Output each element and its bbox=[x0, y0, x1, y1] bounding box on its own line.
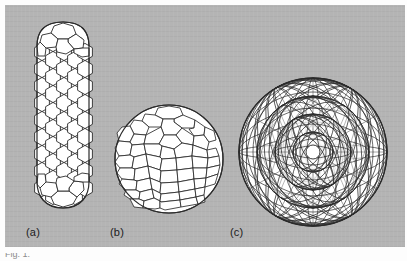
structure-nanotube bbox=[28, 12, 98, 217]
illustration-panel: (a) (b) (c) bbox=[5, 5, 405, 247]
figure-caption-strip: Fig. 1. bbox=[5, 253, 405, 261]
figure-root: (a) (b) (c) Fig. 1. bbox=[0, 0, 407, 261]
structure-carbon-onion bbox=[233, 72, 393, 232]
label-b: (b) bbox=[110, 226, 124, 238]
label-c: (c) bbox=[230, 226, 243, 238]
structure-fullerene-sphere bbox=[110, 100, 228, 218]
figure-caption: Fig. 1. bbox=[5, 253, 30, 260]
label-a: (a) bbox=[26, 226, 40, 238]
